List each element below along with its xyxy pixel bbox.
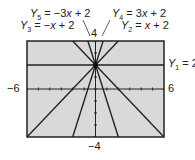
xmax-label: 6 [168, 83, 174, 94]
xmin-label: −6 [7, 83, 20, 94]
ymax-label: 4 [91, 28, 97, 39]
label-y3: Y3 = −x + 2 [20, 20, 74, 35]
leader-y4 [102, 20, 110, 36]
label-y2: Y2 = x + 2 [121, 20, 169, 35]
ymin-label: −4 [88, 141, 101, 152]
label-y1: Y1 = 2 [168, 58, 195, 73]
intersection-point [93, 63, 98, 68]
